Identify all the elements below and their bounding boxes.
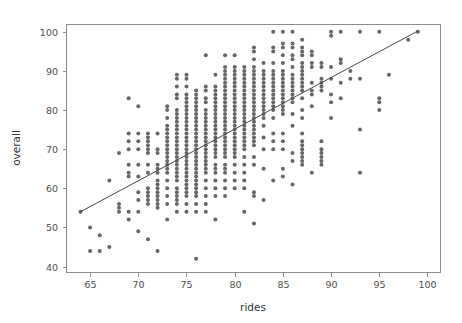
data-point xyxy=(281,81,285,85)
data-point xyxy=(213,116,217,120)
data-point xyxy=(233,81,237,85)
data-point xyxy=(184,77,188,81)
data-point xyxy=(194,96,198,100)
data-point xyxy=(194,132,198,136)
data-point xyxy=(242,92,246,96)
data-point xyxy=(271,178,275,182)
data-point xyxy=(175,112,179,116)
data-point xyxy=(329,92,333,96)
data-point xyxy=(127,218,131,222)
data-point xyxy=(194,124,198,128)
data-point xyxy=(223,92,227,96)
data-point xyxy=(271,30,275,34)
data-point xyxy=(156,182,160,186)
data-point xyxy=(339,61,343,65)
data-point xyxy=(194,171,198,175)
data-point xyxy=(136,132,140,136)
data-point xyxy=(319,85,323,89)
data-point xyxy=(136,190,140,194)
data-point xyxy=(262,89,266,93)
data-point xyxy=(291,81,295,85)
data-point xyxy=(291,89,295,93)
data-point xyxy=(242,104,246,108)
data-point xyxy=(339,96,343,100)
data-point xyxy=(271,132,275,136)
data-point xyxy=(213,104,217,108)
data-point xyxy=(175,92,179,96)
data-point xyxy=(204,96,208,100)
y-tick-label: 100 xyxy=(40,27,58,38)
data-point xyxy=(223,85,227,89)
data-point xyxy=(377,96,381,100)
x-tick-label: 75 xyxy=(180,279,192,290)
data-point xyxy=(242,73,246,77)
data-point xyxy=(194,190,198,194)
data-point xyxy=(146,151,150,155)
data-point xyxy=(291,45,295,49)
data-point xyxy=(377,100,381,104)
data-point xyxy=(156,190,160,194)
data-point xyxy=(223,124,227,128)
data-point xyxy=(194,128,198,132)
data-point xyxy=(242,178,246,182)
data-point xyxy=(252,120,256,124)
data-point xyxy=(175,151,179,155)
data-point xyxy=(281,139,285,143)
data-point xyxy=(223,178,227,182)
data-point xyxy=(175,147,179,151)
data-point xyxy=(194,143,198,147)
data-point xyxy=(281,45,285,49)
data-point xyxy=(358,77,362,81)
data-point xyxy=(252,69,256,73)
data-point xyxy=(165,186,169,190)
regression-line-group xyxy=(80,31,417,212)
data-point xyxy=(204,112,208,116)
data-point xyxy=(204,155,208,159)
plot-canvas: 65707580859095100 405060708090100 rides … xyxy=(0,0,462,323)
data-point xyxy=(252,222,256,226)
data-point xyxy=(233,163,237,167)
data-point xyxy=(233,77,237,81)
data-point xyxy=(281,89,285,93)
data-point xyxy=(136,147,140,151)
data-point xyxy=(223,116,227,120)
data-point xyxy=(146,147,150,151)
data-point xyxy=(242,89,246,93)
data-point xyxy=(223,96,227,100)
data-point xyxy=(194,112,198,116)
data-point xyxy=(184,108,188,112)
data-point xyxy=(300,147,304,151)
data-point xyxy=(175,124,179,128)
data-point xyxy=(223,53,227,57)
y-tick-label: 70 xyxy=(46,144,58,155)
data-point xyxy=(184,163,188,167)
data-point xyxy=(194,104,198,108)
data-point xyxy=(242,85,246,89)
data-point xyxy=(165,108,169,112)
data-point xyxy=(194,159,198,163)
data-point xyxy=(329,34,333,38)
data-point xyxy=(184,159,188,163)
data-point xyxy=(175,186,179,190)
data-point xyxy=(262,85,266,89)
data-point xyxy=(88,225,92,229)
data-point xyxy=(300,143,304,147)
data-point xyxy=(281,132,285,136)
data-point xyxy=(300,49,304,53)
data-point xyxy=(204,120,208,124)
data-point xyxy=(213,120,217,124)
x-tick-label: 70 xyxy=(132,279,144,290)
data-point xyxy=(204,139,208,143)
data-point xyxy=(310,49,314,53)
data-point xyxy=(117,202,121,206)
data-point xyxy=(291,42,295,46)
data-point xyxy=(127,171,131,175)
data-point xyxy=(252,194,256,198)
data-point xyxy=(213,218,217,222)
data-point xyxy=(184,112,188,116)
data-point xyxy=(223,163,227,167)
data-point xyxy=(271,116,275,120)
data-point xyxy=(242,116,246,120)
data-point xyxy=(127,96,131,100)
data-point xyxy=(300,77,304,81)
